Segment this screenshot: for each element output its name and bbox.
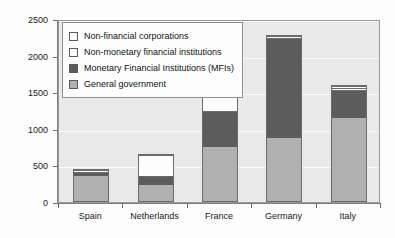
x-axis-tick-mark xyxy=(122,203,123,208)
x-axis-label-germany: Germany xyxy=(265,211,302,221)
x-axis-tick-mark xyxy=(251,203,252,208)
legend-label-non-monetary-financial-institutions: Non-monetary financial institutions xyxy=(84,47,222,57)
x-axis-label-italy: Italy xyxy=(340,211,357,221)
bar-segment xyxy=(203,147,237,201)
y-axis: 05001000150020002500 xyxy=(0,20,58,204)
bar-france xyxy=(202,92,238,202)
legend-swatch-non-financial-corporations xyxy=(69,32,78,41)
bar-netherlands xyxy=(138,154,174,202)
legend-label-mfis: Monetary Financial Institutions (MFIs) xyxy=(84,63,234,73)
y-axis-tick-label: 2000 xyxy=(28,52,48,62)
bar-segment xyxy=(332,90,366,118)
bar-germany xyxy=(266,35,302,202)
legend-swatch-mfis xyxy=(69,64,78,73)
bar-italy xyxy=(331,85,367,202)
legend-label-general-government: General government xyxy=(84,79,166,89)
legend-swatch-general-government xyxy=(69,80,78,89)
y-axis-tick-label: 500 xyxy=(33,161,48,171)
x-axis-tick-mark xyxy=(316,203,317,208)
bar-segment xyxy=(139,155,173,175)
x-axis-tick-mark xyxy=(187,203,188,208)
bar-segment xyxy=(139,176,173,185)
x-axis-label-netherlands: Netherlands xyxy=(130,211,179,221)
legend-item-mfis: Monetary Financial Institutions (MFIs) xyxy=(69,60,234,76)
x-axis-label-france: France xyxy=(205,211,233,221)
y-axis-tick-label: 2500 xyxy=(28,15,48,25)
legend-swatch-non-monetary-financial-institutions xyxy=(69,48,78,57)
y-axis-tick-label: 1000 xyxy=(28,125,48,135)
legend-item-non-monetary-financial-institutions: Non-monetary financial institutions xyxy=(69,44,234,60)
legend-label-non-financial-corporations: Non-financial corporations xyxy=(84,31,189,41)
x-axis-tick-mark xyxy=(58,203,59,208)
bar-segment xyxy=(203,111,237,147)
bar-segment xyxy=(267,138,301,201)
bar-segment xyxy=(74,176,108,201)
y-axis-tick-label: 0 xyxy=(43,198,48,208)
chart-legend: Non-financial corporations Non-monetary … xyxy=(62,22,243,98)
y-axis-tick-label: 1500 xyxy=(28,88,48,98)
x-axis-label-spain: Spain xyxy=(79,211,102,221)
legend-item-general-government: General government xyxy=(69,76,234,92)
x-axis-line xyxy=(58,203,380,204)
bar-spain xyxy=(73,169,109,202)
stacked-bar-chart: 05001000150020002500 Non-financial corpo… xyxy=(0,0,395,238)
bar-segment xyxy=(332,118,366,201)
bar-segment xyxy=(139,185,173,201)
legend-item-non-financial-corporations: Non-financial corporations xyxy=(69,28,234,44)
x-axis-tick-mark xyxy=(380,203,381,208)
bar-segment xyxy=(267,38,301,138)
